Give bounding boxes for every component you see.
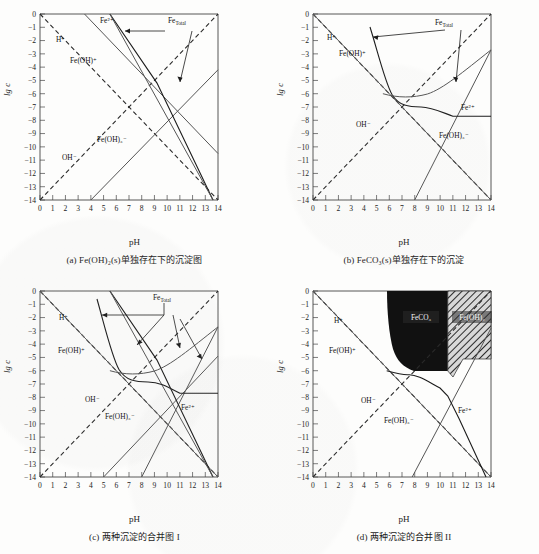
svg-text:FeTotal: FeTotal [153,293,172,303]
svg-text:−9: −9 [28,129,36,138]
svg-text:−11: −11 [24,433,36,442]
svg-text:0: 0 [32,287,36,296]
svg-text:12: 12 [189,481,197,490]
panel-d: lg c [269,277,539,554]
x-tick-labels-d: 01 23 45 67 89 1011 1213 14 [311,481,495,490]
svg-text:0: 0 [311,204,315,213]
x-axis-label-a: pH [0,237,269,247]
plot-area-a: 01 23 45 67 89 1011 1213 14 0−1 −2−3 −4−… [40,14,232,214]
curve-labels-b: FeTotal Fe²⁺ Fe(OH)⁺ Fe(OH)₃⁻ H⁺ OH⁻ [327,18,475,140]
svg-text:−2: −2 [301,313,309,322]
svg-text:−13: −13 [297,183,309,192]
svg-text:5: 5 [102,481,106,490]
svg-text:−12: −12 [24,169,36,178]
curve-labels-a: Fe²⁺ FeTotal Fe(OH)⁺ Fe(OH)₃⁻ H⁺ OH⁻ [56,16,187,162]
svg-text:9: 9 [426,481,430,490]
plot-svg-a: 01 23 45 67 89 1011 1213 14 0−1 −2−3 −4−… [40,14,232,214]
svg-text:H⁺: H⁺ [327,33,336,42]
plot-svg-c: 01 23 45 67 89 1011 1213 14 0−1 −2−3 −4−… [40,291,232,491]
y-axis-label-b: lg c [275,83,285,96]
svg-text:−8: −8 [301,393,309,402]
svg-text:−1: −1 [301,23,309,32]
svg-text:2: 2 [64,481,68,490]
x-tick-labels-c: 01 23 45 67 89 1011 1213 14 [38,481,222,490]
y-ticks-d [313,291,318,477]
svg-text:−12: −12 [24,446,36,455]
svg-text:−1: −1 [28,23,36,32]
y-axis-label-d: lg c [275,360,285,373]
svg-text:1: 1 [324,204,328,213]
region-feoh2 [448,291,491,377]
panel-a: lg c [0,0,269,277]
svg-text:4: 4 [362,204,366,213]
svg-text:−14: −14 [24,196,36,205]
svg-text:H⁺: H⁺ [59,313,68,322]
svg-text:11: 11 [176,204,184,213]
svg-text:13: 13 [474,204,482,213]
svg-text:5: 5 [375,481,379,490]
x-axis-label-b: pH [269,237,539,247]
svg-text:4: 4 [89,204,93,213]
svg-text:Fe(OH)⁺: Fe(OH)⁺ [70,56,97,65]
svg-text:−10: −10 [297,143,309,152]
svg-text:3: 3 [76,204,80,213]
svg-text:5: 5 [375,204,379,213]
svg-text:Fe(OH)⁺: Fe(OH)⁺ [329,346,356,355]
svg-text:−9: −9 [301,129,309,138]
svg-text:12: 12 [462,481,470,490]
svg-text:−7: −7 [28,103,36,112]
svg-text:−10: −10 [24,143,36,152]
svg-text:3: 3 [76,481,80,490]
svg-text:−11: −11 [297,156,309,165]
plot-svg-d: 01 23 45 67 89 1011 1213 14 0−1 −2−3 −4−… [313,291,505,491]
y-ticks-a [40,14,45,200]
panel-caption-a: (a) Fe(OH)₂(s)单独存在下的沉淀图 [0,253,269,266]
panel-caption-d: (d) 两种沉淀的合并图 II [269,530,539,543]
region-feco3 [387,291,448,371]
panel-caption-c: (c) 两种沉淀的合并图 I [0,530,269,543]
svg-text:−4: −4 [301,340,309,349]
svg-text:7: 7 [400,481,404,490]
svg-text:7: 7 [127,204,131,213]
svg-text:8: 8 [140,204,144,213]
svg-text:Fe(OH)₃⁻: Fe(OH)₃⁻ [384,416,414,425]
svg-text:−7: −7 [301,103,309,112]
svg-text:0: 0 [38,204,42,213]
svg-text:−13: −13 [297,460,309,469]
svg-text:4: 4 [89,481,93,490]
svg-text:1: 1 [51,481,55,490]
svg-text:9: 9 [153,481,157,490]
y-tick-labels-d: 0−1 −2−3 −4−5 −6−7 −8−9 −10−11 −12−13 −1… [297,287,309,482]
svg-text:OH⁻: OH⁻ [85,395,100,404]
svg-text:6: 6 [387,204,391,213]
svg-text:0: 0 [305,10,309,19]
svg-text:8: 8 [140,481,144,490]
svg-text:−14: −14 [297,473,309,482]
svg-text:FeTotal: FeTotal [168,16,187,26]
svg-text:FeTotal: FeTotal [435,18,454,28]
svg-text:13: 13 [201,204,209,213]
panel-b: lg c [269,0,539,277]
svg-text:−8: −8 [28,393,36,402]
svg-text:−5: −5 [301,76,309,85]
svg-text:3: 3 [349,481,353,490]
svg-text:−11: −11 [24,156,36,165]
svg-text:0: 0 [38,481,42,490]
svg-text:11: 11 [176,481,184,490]
y-ticks-b [313,14,318,200]
svg-text:13: 13 [201,481,209,490]
svg-text:11: 11 [449,204,457,213]
panel-caption-b: (b) FeCO₃(s)单独存在下的沉淀 [269,253,539,266]
plot-area-b: 01 23 45 67 89 1011 1213 14 0−1 −2−3 −4−… [313,14,505,214]
svg-text:−6: −6 [301,90,309,99]
svg-text:6: 6 [114,204,118,213]
svg-text:14: 14 [214,204,222,213]
svg-text:−10: −10 [297,420,309,429]
svg-text:−8: −8 [28,116,36,125]
svg-text:−12: −12 [297,169,309,178]
svg-text:10: 10 [163,481,171,490]
svg-text:Fe(OH)₃⁻: Fe(OH)₃⁻ [439,131,469,140]
svg-text:−4: −4 [28,63,36,72]
svg-text:−6: −6 [301,367,309,376]
svg-text:−1: −1 [301,300,309,309]
